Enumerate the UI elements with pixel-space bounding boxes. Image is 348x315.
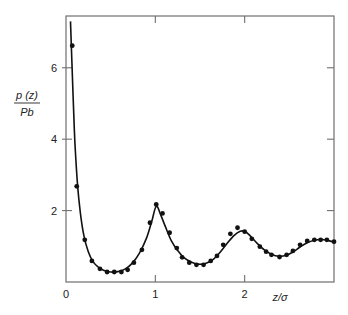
data-point <box>105 270 110 275</box>
data-point <box>148 220 153 225</box>
data-point <box>269 252 274 257</box>
density-profile-chart: 012246 p (z) Pb z/σ <box>0 0 348 315</box>
data-point <box>70 43 75 48</box>
y-tick-label: 4 <box>51 133 57 145</box>
data-point <box>194 262 199 267</box>
data-point <box>90 259 95 264</box>
data-point <box>119 270 124 275</box>
data-point <box>235 225 240 230</box>
data-point <box>242 229 247 234</box>
data-point <box>82 237 87 242</box>
data-point <box>167 230 172 235</box>
data-point <box>131 260 136 265</box>
data-point <box>140 247 145 252</box>
data-point <box>324 237 329 242</box>
data-point <box>291 249 296 254</box>
data-point <box>125 267 130 272</box>
data-point <box>208 259 213 264</box>
data-point <box>298 242 303 247</box>
data-point <box>318 237 323 242</box>
data-point <box>332 239 337 244</box>
data-point <box>160 211 165 216</box>
axis-tick-labels: 012246 <box>51 62 248 300</box>
data-point <box>264 249 269 254</box>
x-tick-label: 1 <box>152 288 158 300</box>
y-tick-label: 6 <box>51 62 57 74</box>
y-label-denominator: Pb <box>20 106 33 118</box>
plot-frame <box>66 16 334 282</box>
data-point <box>112 270 117 275</box>
y-axis-label: p (z) Pb <box>14 89 40 118</box>
x-tick-label: 2 <box>242 288 248 300</box>
data-point <box>249 236 254 241</box>
data-point <box>305 239 310 244</box>
data-point <box>284 252 289 257</box>
simulation-data-points <box>70 43 337 274</box>
data-point <box>174 246 179 251</box>
axis-ticks <box>62 16 334 282</box>
y-label-numerator: p (z) <box>15 89 38 101</box>
data-point <box>74 184 79 189</box>
theory-curve <box>71 21 335 272</box>
data-point <box>228 231 233 236</box>
x-axis-label: z/σ <box>271 291 288 303</box>
data-point <box>215 254 220 259</box>
data-point <box>221 242 226 247</box>
data-point <box>257 244 262 249</box>
x-tick-label: 0 <box>63 288 69 300</box>
data-point <box>312 237 317 242</box>
data-point <box>277 255 282 260</box>
data-point <box>201 262 206 267</box>
y-tick-label: 2 <box>51 205 57 217</box>
data-point <box>180 255 185 260</box>
data-point <box>187 260 192 265</box>
data-point <box>154 202 159 207</box>
data-point <box>98 266 103 271</box>
